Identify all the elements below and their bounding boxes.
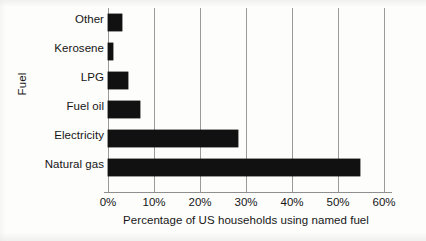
plot-area (108, 8, 384, 192)
bar-electricity (108, 130, 238, 147)
y-axis-label-lpg: LPG (8, 71, 104, 83)
x-tick-10: 10% (131, 196, 177, 208)
x-tick-30: 30% (223, 196, 269, 208)
gridline-60 (384, 8, 385, 192)
x-axis-tick-labels: 0% 10% 20% 30% 40% 50% 60% (0, 196, 426, 214)
bar-natural-gas (108, 159, 360, 176)
y-axis-label-electricity: Electricity (8, 129, 104, 141)
y-axis-label-fuel-oil: Fuel oil (8, 100, 104, 112)
bar-fuel-oil (108, 101, 140, 118)
bar-lpg (108, 72, 128, 89)
bar-chart-figure: Fuel Other Kerosene LPG Fuel oil Electri… (0, 0, 426, 241)
x-tick-60: 60% (361, 196, 407, 208)
bar-other (108, 14, 122, 31)
x-axis-title: Percentage of US households using named … (108, 214, 384, 226)
x-tick-0: 0% (85, 196, 131, 208)
x-axis-line (104, 192, 392, 193)
y-axis-label-other: Other (8, 13, 104, 25)
x-tick-20: 20% (177, 196, 223, 208)
y-axis-category-labels: Other Kerosene LPG Fuel oil Electricity … (4, 0, 104, 192)
bar-kerosene (108, 43, 113, 60)
y-axis-label-kerosene: Kerosene (8, 42, 104, 54)
x-tick-50: 50% (315, 196, 361, 208)
y-axis-label-natural-gas: Natural gas (8, 158, 104, 170)
x-tick-40: 40% (269, 196, 315, 208)
